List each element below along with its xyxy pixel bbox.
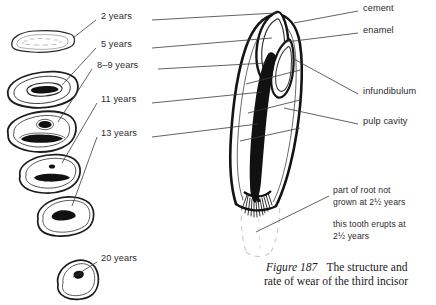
- stage-label-11-years: 11 years: [101, 94, 136, 105]
- stage-label-5-years: 5 years: [101, 39, 132, 50]
- figure-caption-second-line: rate of wear of the third incisor: [264, 275, 408, 289]
- figure-caption: Figure 187The structure and: [266, 261, 408, 275]
- leader-cement: [294, 11, 358, 23]
- leader-body-1: [246, 70, 300, 84]
- leader-row-5: [152, 124, 258, 137]
- leader-body-3: [240, 128, 300, 141]
- structure-label-enamel: enamel: [363, 25, 394, 36]
- leader-row-1: [152, 13, 276, 20]
- annotation-erupts-line-1: this tooth erupts at: [333, 219, 406, 229]
- leader-row-2: [152, 38, 272, 48]
- structure-label-pulp-cavity: pulp cavity: [363, 116, 408, 127]
- leader-root-not-grown: [256, 196, 329, 232]
- annotation-root-not-grown: part of root not grown at 2½ years: [333, 185, 433, 208]
- figure-caption-line-1: The structure and: [326, 261, 407, 274]
- leader-enamel: [286, 33, 358, 42]
- leader-stage-5-years: [62, 48, 96, 85]
- figure-187-diagram: 2 years 5 years 8–9 years 11 years 13 ye…: [0, 0, 436, 305]
- stage-label-13-years: 13 years: [101, 128, 137, 139]
- leader-body-2: [248, 100, 300, 113]
- leader-row-3: [158, 63, 266, 69]
- figure-number: Figure 187: [266, 261, 317, 274]
- leader-stage-8-9-years: [58, 69, 92, 122]
- leader-stage-2-years: [73, 20, 96, 38]
- stage-label-20-years: 20 years: [101, 253, 137, 264]
- stage-label-8-9-years: 8–9 years: [97, 60, 138, 71]
- leader-stage-11-years: [62, 103, 97, 163]
- annotation-tooth-erupts: this tooth erupts at 2½ years: [333, 219, 433, 242]
- annotation-root-line-1: part of root not: [333, 185, 391, 195]
- leader-lines: [0, 0, 436, 305]
- annotation-root-line-2: grown at 2½ years: [333, 197, 405, 207]
- stage-label-2-years: 2 years: [101, 11, 132, 22]
- leader-stage-13-years: [72, 137, 97, 206]
- structure-label-infundibulum: infundibulum: [363, 86, 416, 97]
- annotation-erupts-line-2: 2½ years: [333, 231, 369, 241]
- leader-infundibulum: [292, 58, 358, 94]
- leader-stage-20-years: [73, 262, 97, 277]
- leader-pulp-cavity: [284, 108, 358, 124]
- structure-label-cement: cement: [363, 3, 394, 14]
- leader-row-4: [152, 92, 262, 103]
